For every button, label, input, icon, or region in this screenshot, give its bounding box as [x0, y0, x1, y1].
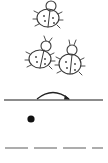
ladybug-icon [33, 1, 63, 28]
worksheet-canvas [0, 0, 108, 163]
ladybug-icon [25, 36, 55, 69]
start-dot [27, 115, 34, 122]
curved-arrow-icon [37, 93, 70, 100]
worksheet [0, 0, 108, 163]
ladybug-icon [55, 40, 85, 75]
